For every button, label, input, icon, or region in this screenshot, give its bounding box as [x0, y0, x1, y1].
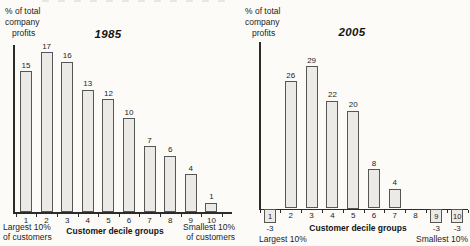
bar — [347, 111, 359, 209]
bar-value-label: 15 — [16, 61, 36, 70]
bar-value-label: 13 — [78, 79, 98, 88]
plot-area: 151172163134125106776849110 — [0, 0, 237, 246]
bar — [306, 66, 318, 208]
bar — [102, 99, 114, 212]
bar — [41, 52, 53, 212]
bar-value-label: 12 — [98, 89, 118, 98]
chart-2005: % of total company profits 2005 1-326229… — [237, 0, 470, 246]
bar-value-label: 17 — [37, 42, 57, 51]
category-label: 4 — [78, 216, 98, 225]
caption-line: Smallest 10% — [408, 235, 468, 245]
bar-value-label: 6 — [160, 145, 180, 154]
bar-value-label: 4 — [181, 164, 201, 173]
bar — [389, 189, 401, 209]
bar — [368, 169, 380, 208]
axis-tick — [447, 210, 448, 213]
bar-value-label: 7 — [140, 136, 160, 145]
bar — [285, 81, 297, 208]
category-label: 8 — [406, 211, 426, 220]
caption-line: of customers — [175, 233, 235, 243]
bar-value-label: 26 — [281, 71, 301, 80]
category-label: 3 — [57, 216, 77, 225]
bar — [20, 71, 32, 212]
bar — [185, 174, 197, 212]
bar — [164, 156, 176, 212]
category-label: 6 — [119, 216, 139, 225]
bar — [61, 62, 73, 212]
category-label: 5 — [343, 211, 363, 220]
left-axis-caption: Largest 10% of customers — [3, 223, 52, 243]
negative-bar: 10 — [451, 209, 463, 224]
axis-tick — [468, 210, 469, 213]
bar-value-label: 22 — [322, 90, 342, 99]
bar-value-label: -3 — [260, 224, 280, 233]
bar-value-label: 8 — [364, 159, 384, 168]
negative-bar: 1 — [264, 209, 276, 224]
plot-area: 1-3262293224205864789-310-3 — [237, 0, 470, 246]
bar-value-label: 20 — [343, 100, 363, 109]
bar-value-label: 10 — [119, 108, 139, 117]
caption-line: of customers — [3, 233, 52, 243]
category-label: 3 — [302, 211, 322, 220]
profit-decile-chart-page: % of total company profits 1985 15117216… — [0, 0, 470, 246]
axis-tick — [222, 214, 223, 217]
negative-bar: 9 — [430, 209, 442, 224]
bar — [144, 146, 156, 212]
x-axis-label: Customer decile groups — [278, 223, 438, 233]
caption-line: Largest 10% — [259, 235, 307, 245]
bar-value-label: -3 — [447, 224, 467, 233]
y-axis-line — [259, 42, 261, 209]
bar-value-label: 16 — [57, 51, 77, 60]
category-label: 5 — [98, 216, 118, 225]
right-axis-caption: Smallest 10% of customers — [175, 223, 235, 243]
bar-value-label: 29 — [302, 56, 322, 65]
axis-tick — [260, 210, 261, 213]
category-label: 7 — [385, 211, 405, 220]
bar-value-label: 4 — [385, 178, 405, 187]
chart-1985: % of total company profits 1985 15117216… — [0, 0, 237, 246]
bar — [326, 101, 338, 209]
x-axis-line — [13, 212, 232, 214]
bar — [82, 90, 94, 212]
bar-value-label: 1 — [201, 192, 221, 201]
category-label: 6 — [364, 211, 384, 220]
left-axis-caption: Largest 10% — [259, 235, 307, 245]
bar — [123, 118, 135, 212]
category-label: 4 — [322, 211, 342, 220]
right-axis-caption: Smallest 10% — [408, 235, 468, 245]
x-axis-label: Customer decile groups — [35, 226, 195, 236]
axis-tick — [426, 210, 427, 213]
category-label: 7 — [140, 216, 160, 225]
category-label: 2 — [281, 211, 301, 220]
y-axis-line — [13, 45, 15, 212]
bar — [205, 203, 217, 212]
